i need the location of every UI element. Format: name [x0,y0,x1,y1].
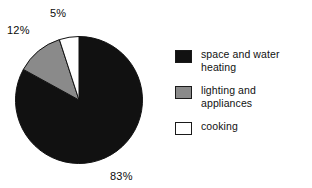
pie-chart-plot-area [15,36,143,164]
legend-item-cooking: cooking [175,120,309,135]
data-label-cooking: 5% [50,7,66,19]
pie-chart-figure: 5% 12% 83% space and water heating light… [0,0,312,188]
legend-swatch-icon-black [175,50,192,63]
legend-label-lighting-and-appliances: lighting and appliances [201,84,309,109]
legend-swatch-icon-gray [175,86,192,99]
legend-item-space-and-water-heating: space and water heating [175,48,309,73]
chart-legend: space and water heating lighting and app… [175,48,309,135]
pie-slices [15,37,142,164]
legend-swatch-icon-white [175,122,192,135]
pie-svg [15,36,143,164]
legend-item-lighting-and-appliances: lighting and appliances [175,84,309,109]
legend-label-cooking: cooking [201,120,238,133]
legend-label-space-and-water-heating: space and water heating [201,48,280,73]
data-label-heating: 83% [110,170,133,182]
data-label-lighting: 12% [7,24,30,36]
